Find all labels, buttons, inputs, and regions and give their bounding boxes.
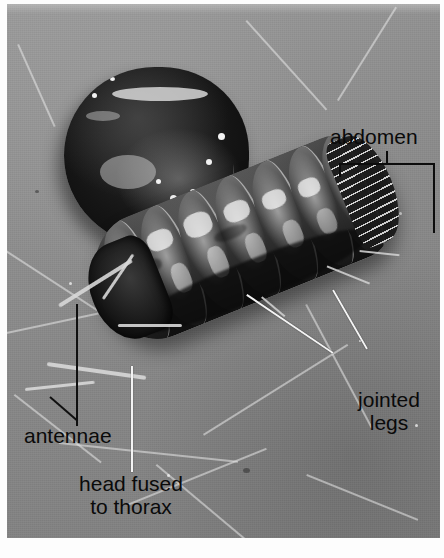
abdomen-bracket-right-tick <box>433 163 435 233</box>
jointed-legs-leader-line-lower <box>246 294 333 354</box>
abdomen-bracket-stem <box>386 151 388 164</box>
label-head-fused-line2: to thorax <box>58 495 204 518</box>
figure-caption <box>18 543 424 556</box>
label-antennae: antennae <box>24 424 112 447</box>
label-abdomen: abdomen <box>330 125 418 148</box>
label-head-fused-line1: head fused <box>58 472 204 495</box>
abdomen-bracket-left-tick <box>339 163 341 177</box>
head-fused-leader-line <box>131 366 133 472</box>
label-jointed-legs: jointed legs <box>341 388 437 434</box>
jointed-legs-leader-line-upper <box>332 290 368 350</box>
abdomen-bracket <box>339 163 435 233</box>
figure-container: abdomen jointed legs antennae head fused… <box>0 0 444 558</box>
label-jointed-legs-line1: jointed <box>341 388 437 411</box>
annotation-layer: abdomen jointed legs antennae head fused… <box>0 0 444 558</box>
antennae-leader-line-diagonal <box>49 396 77 421</box>
antennae-leader-line-vertical <box>76 304 78 426</box>
label-jointed-legs-line2: legs <box>341 411 437 434</box>
label-head-fused-to-thorax: head fused to thorax <box>58 472 204 518</box>
